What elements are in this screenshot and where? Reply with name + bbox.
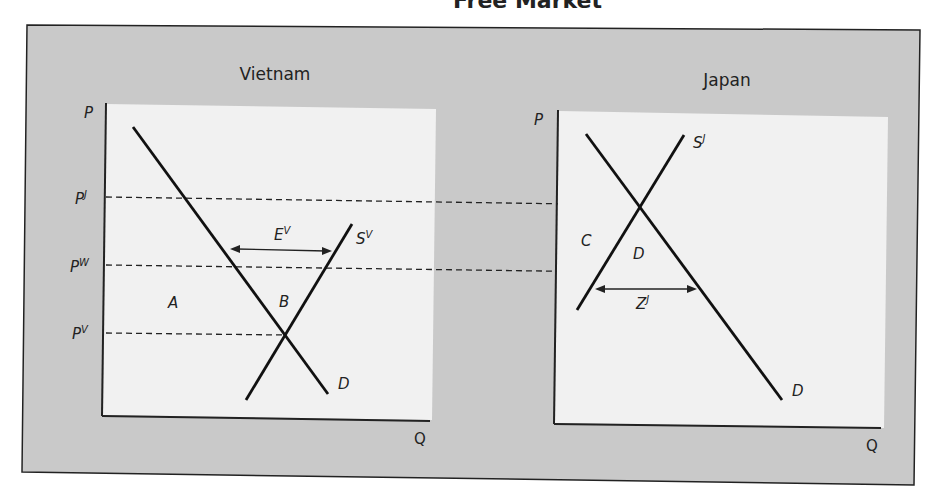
area-d-label: D: [633, 245, 645, 263]
area-c-label: C: [581, 232, 592, 250]
vietnam-demand-label: D: [338, 375, 350, 393]
japan-y-axis-label: P: [534, 111, 544, 129]
area-a-label: A: [167, 294, 178, 312]
vietnam-plot-area: [103, 104, 436, 420]
japan-title: Japan: [702, 70, 750, 90]
japan-x-axis-label: Q: [866, 437, 878, 455]
vietnam-y-axis-label: P: [84, 104, 94, 122]
area-b-label: B: [279, 293, 289, 311]
trade-diagram: Vietnam P Q PJ PW PV D SV A B EV Japan: [0, 0, 935, 504]
vietnam-x-axis-label: Q: [414, 430, 426, 448]
japan-panel: Japan P Q D SJ C D ZJ: [534, 70, 888, 455]
japan-demand-label: D: [792, 382, 804, 400]
vietnam-title: Vietnam: [240, 64, 311, 84]
